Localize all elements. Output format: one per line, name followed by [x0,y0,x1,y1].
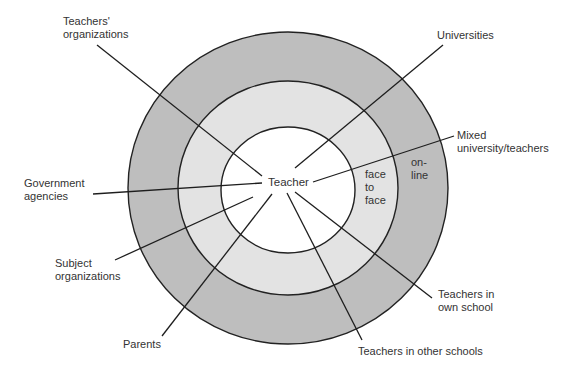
node-label-universities: Universities [437,29,494,41]
node-label-mixed-university-teachers: Mixed university/teachers [457,129,549,154]
node-label-subject-organizations: Subject organizations [55,257,121,282]
node-label-parents: Parents [123,338,161,350]
node-label-government-agencies: Government agencies [24,177,88,202]
node-label-teachers-organizations: Teachers' organizations [63,15,129,40]
teacher-network-diagram: Teacher face to face on- line Teachers' … [0,0,568,374]
node-label-teachers-in-other-schools: Teachers in other schools [358,345,483,357]
node-label-teachers-in-own-school: Teachers in own school [438,288,497,313]
ring-label-online: on- line [411,156,430,181]
center-label-teacher: Teacher [268,176,309,188]
